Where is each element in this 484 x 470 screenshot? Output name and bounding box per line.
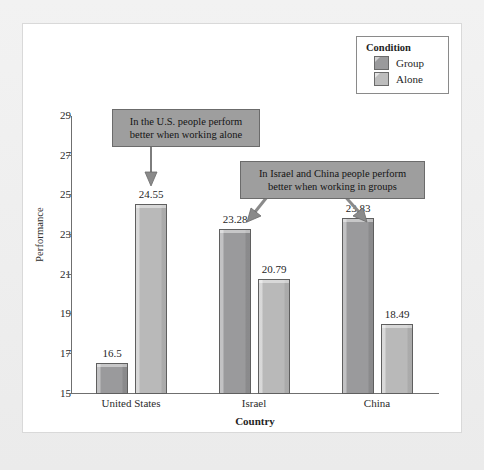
x-category-china: China — [317, 397, 437, 409]
y-tick-mark-19 — [66, 313, 71, 314]
legend: Condition Group Alone — [356, 36, 449, 94]
x-category-united-states: United States — [71, 397, 191, 409]
chart-panel: 15 17 19 21 23 25 27 — [22, 23, 462, 433]
legend-label-group: Group — [396, 57, 424, 69]
y-tick-mark-17 — [66, 353, 71, 354]
legend-item-group[interactable]: Group — [364, 56, 441, 70]
bar-china-alone[interactable] — [381, 324, 413, 394]
y-tick-17: 17 — [23, 348, 71, 359]
bar-value-israel-group: 23.28 — [204, 213, 266, 225]
plot-area: 15 17 19 21 23 25 27 — [23, 24, 463, 434]
bar-value-china-group: 23.83 — [327, 202, 389, 214]
y-tick-mark-25 — [66, 194, 71, 195]
bar-value-united-states-alone: 24.55 — [120, 188, 182, 200]
y-tick-mark-23 — [66, 234, 71, 235]
legend-item-alone[interactable]: Alone — [364, 72, 441, 86]
annotation-us-line1: In the U.S. people perform — [119, 115, 253, 128]
y-tick-mark-15 — [66, 393, 71, 394]
bar-value-united-states-group: 16.5 — [81, 347, 143, 359]
legend-swatch-alone-icon — [374, 72, 389, 86]
bar-united-states-group[interactable] — [96, 363, 128, 394]
y-axis-line — [71, 116, 72, 394]
x-category-israel: Israel — [194, 397, 314, 409]
legend-label-alone: Alone — [396, 73, 423, 85]
x-axis-title: Country — [71, 415, 439, 427]
bar-israel-group[interactable] — [219, 229, 251, 394]
y-tick-27: 27 — [23, 150, 71, 161]
bar-china-group[interactable] — [342, 218, 374, 394]
y-tick-mark-27 — [66, 155, 71, 156]
legend-title: Condition — [364, 42, 441, 53]
y-tick-mark-21 — [66, 274, 71, 275]
bar-value-china-alone: 18.49 — [366, 308, 428, 320]
y-tick-25: 25 — [23, 189, 71, 200]
annotation-us-note: In the U.S. people perform better when w… — [112, 109, 260, 147]
bar-united-states-alone[interactable] — [135, 204, 167, 394]
y-tick-19: 19 — [23, 308, 71, 319]
annotation-us-line2: better when working alone — [119, 128, 253, 141]
figure-root: 15 17 19 21 23 25 27 — [0, 0, 484, 470]
y-tick-29: 29 — [23, 110, 71, 121]
y-tick-15: 15 — [23, 388, 71, 399]
annotation-israel-china-note: In Israel and China people perform bette… — [240, 161, 425, 199]
bar-israel-alone[interactable] — [258, 279, 290, 394]
y-tick-mark-29 — [66, 115, 71, 116]
legend-swatch-group-icon — [374, 56, 389, 70]
arrow-us-to-alone-bar — [145, 141, 157, 186]
annotation-israel-china-line2: better when working in groups — [247, 180, 418, 193]
y-axis-title: Performance — [34, 180, 45, 290]
annotation-israel-china-line1: In Israel and China people perform — [247, 167, 418, 180]
y-tick-23: 23 — [23, 229, 71, 240]
bar-value-israel-alone: 20.79 — [243, 263, 305, 275]
y-tick-21: 21 — [23, 269, 71, 280]
